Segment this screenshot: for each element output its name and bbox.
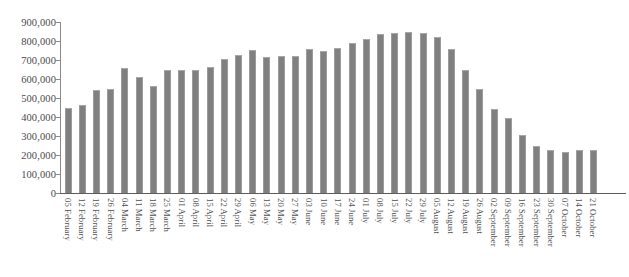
bar-column (288, 22, 302, 193)
x-axis-tick-label: 29 July (418, 198, 428, 224)
y-axis-tick-mark (55, 79, 60, 80)
x-axis-tick-label: 27 May (290, 198, 300, 225)
x-axis-labels: 05 February12 February19 February26 Febr… (61, 196, 626, 277)
bar (334, 48, 341, 193)
bar-column (246, 22, 260, 193)
bar-column (274, 22, 288, 193)
x-axis-tick-label: 30 September (546, 198, 556, 247)
bar-column (558, 22, 572, 193)
y-axis-tick-label: 100,000 (21, 169, 56, 180)
x-axis-tick-label: 08 April (191, 198, 201, 227)
x-axis-tick-label: 29 April (233, 198, 243, 227)
bar-column (501, 22, 515, 193)
x-axis-tick-label: 03 June (304, 198, 314, 225)
bar-column (331, 22, 345, 193)
x-axis-label-slot: 16 September (515, 196, 529, 277)
bar (79, 105, 86, 193)
x-axis-tick-label: 24 June (347, 198, 357, 225)
bar (491, 109, 498, 193)
y-axis-labels: 0100,000200,000300,000400,000500,000600,… (0, 0, 56, 200)
bar-column (231, 22, 245, 193)
x-axis-tick-label: 12 August (446, 198, 456, 234)
x-axis-label-slot: 08 July (373, 196, 387, 277)
bar-column (416, 22, 430, 193)
bar (590, 150, 597, 193)
x-axis-label-slot: 29 July (416, 196, 430, 277)
bar-column (160, 22, 174, 193)
x-axis-tick-label: 06 May (248, 198, 258, 225)
x-axis-label-slot: 29 April (231, 196, 245, 277)
bar-column (487, 22, 501, 193)
x-axis-tick-label: 13 May (262, 198, 272, 225)
y-axis-tick-label: 500,000 (21, 93, 56, 104)
x-axis-tick-label: 05 August (432, 198, 442, 234)
x-axis-label-slot: 26 February (104, 196, 118, 277)
bar (462, 70, 469, 193)
x-axis-tick-label: 20 May (276, 198, 286, 225)
bar-column (302, 22, 316, 193)
x-axis-tick-label: 22 July (404, 198, 414, 224)
x-axis-tick-label: 04 March (120, 198, 130, 232)
bar (221, 59, 228, 193)
bar (178, 70, 185, 194)
bar-column (473, 22, 487, 193)
y-axis-tick-mark (55, 174, 60, 175)
x-axis-tick-label: 19 February (91, 198, 101, 241)
bar-column (515, 22, 529, 193)
bar-column (430, 22, 444, 193)
x-axis-tick-label: 09 September (503, 198, 513, 247)
y-axis-tick-mark (55, 60, 60, 61)
x-axis-label-slot: 26 August (473, 196, 487, 277)
y-axis-tick-label: 900,000 (21, 17, 56, 28)
bar (320, 51, 327, 193)
x-axis-label-slot: 11 March (132, 196, 146, 277)
bar (107, 89, 114, 193)
x-axis-label-slot: 05 August (430, 196, 444, 277)
x-axis-label-slot: 27 May (288, 196, 302, 277)
bar-column (189, 22, 203, 193)
x-axis-label-slot: 24 June (345, 196, 359, 277)
y-axis-tick-label: 600,000 (21, 74, 56, 85)
x-axis-label-slot: 30 September (544, 196, 558, 277)
x-axis-label-slot: 12 August (444, 196, 458, 277)
bar (533, 146, 540, 194)
bar (562, 152, 569, 193)
x-axis-label-slot: 25 March (160, 196, 174, 277)
x-axis-label-slot: 12 February (75, 196, 89, 277)
bar (505, 118, 512, 193)
x-axis-label-slot: 22 April (217, 196, 231, 277)
bar (377, 34, 384, 193)
y-axis-tick-mark (55, 22, 60, 23)
bar-column (544, 22, 558, 193)
x-axis-label-slot: 07 October (558, 196, 572, 277)
y-axis-tick-mark (55, 98, 60, 99)
x-axis-tick-label: 11 March (134, 198, 144, 232)
bar-column (118, 22, 132, 193)
x-axis-label-slot: 14 October (572, 196, 586, 277)
y-axis-tick-mark (55, 155, 60, 156)
x-axis-tick-label: 14 October (574, 198, 584, 237)
bar-column (373, 22, 387, 193)
bar-column (388, 22, 402, 193)
bar-column (345, 22, 359, 193)
x-axis-label-slot: 06 May (246, 196, 260, 277)
x-axis-label-slot: 17 June (331, 196, 345, 277)
bar (249, 50, 256, 193)
bar-column (359, 22, 373, 193)
bar-column (459, 22, 473, 193)
x-axis-label-slot: 15 July (388, 196, 402, 277)
bar (420, 33, 427, 193)
bar-column (203, 22, 217, 193)
x-axis-tick-label: 17 June (333, 198, 343, 225)
bar (405, 32, 412, 193)
y-axis-tick-label: 300,000 (21, 131, 56, 142)
x-axis-label-slot: 03 June (302, 196, 316, 277)
bar-column (402, 22, 416, 193)
y-axis-tick-mark (55, 193, 60, 194)
x-axis-label-slot: 01 April (175, 196, 189, 277)
x-axis-label-slot: 23 September (530, 196, 544, 277)
x-axis-line (60, 193, 626, 194)
x-axis-label-slot: 19 February (89, 196, 103, 277)
bar-column (572, 22, 586, 193)
x-axis-label-slot: 10 June (317, 196, 331, 277)
